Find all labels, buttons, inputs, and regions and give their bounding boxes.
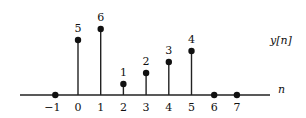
stem-dot bbox=[75, 37, 81, 43]
value-label: 6 bbox=[97, 11, 104, 24]
tick-label: 2 bbox=[120, 101, 127, 114]
stem-dot bbox=[188, 48, 194, 54]
tick-label: 1 bbox=[97, 101, 104, 114]
stem-dot bbox=[98, 26, 104, 32]
tick-label: 0 bbox=[75, 101, 82, 114]
tick-label: 7 bbox=[233, 101, 240, 114]
stem-dot bbox=[234, 92, 240, 98]
tick-label: 3 bbox=[143, 101, 150, 114]
value-label: 5 bbox=[75, 22, 82, 35]
value-label: 1 bbox=[120, 66, 127, 79]
stem-dot bbox=[166, 59, 172, 65]
tick-label: 4 bbox=[165, 101, 172, 114]
tick-label: 6 bbox=[211, 101, 218, 114]
signal-label: y[n] bbox=[269, 34, 293, 47]
value-label: 4 bbox=[188, 33, 195, 46]
stem-dot bbox=[52, 92, 58, 98]
stem-dot bbox=[120, 81, 126, 87]
stem-dot bbox=[211, 92, 217, 98]
axis-label-n: n bbox=[278, 83, 285, 96]
value-label: 2 bbox=[143, 55, 150, 68]
tick-label: −1 bbox=[44, 101, 60, 114]
stems: −150611223344567 bbox=[44, 11, 240, 114]
tick-label: 5 bbox=[188, 101, 195, 114]
stem-plot: −150611223344567 y[n] n bbox=[0, 0, 306, 118]
stem-dot bbox=[143, 70, 149, 76]
value-label: 3 bbox=[165, 44, 172, 57]
